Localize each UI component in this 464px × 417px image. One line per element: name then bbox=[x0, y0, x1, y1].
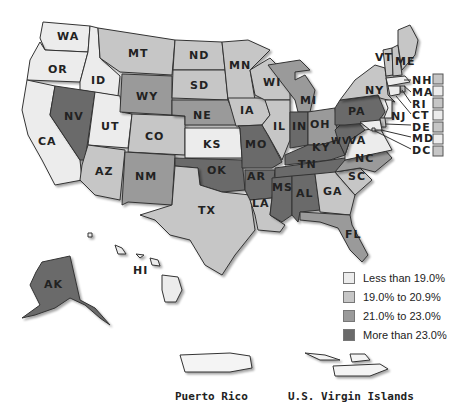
box-nh[interactable] bbox=[433, 74, 443, 84]
box-dc[interactable] bbox=[433, 146, 443, 156]
box-de[interactable] bbox=[433, 122, 443, 132]
svg-text:NJ: NJ bbox=[391, 110, 406, 123]
svg-text:ND: ND bbox=[189, 49, 209, 62]
svg-text:VT: VT bbox=[375, 51, 393, 64]
small-state-callout-labels: NH MA RI CT DE MD DC bbox=[412, 74, 434, 157]
legend-swatch bbox=[343, 310, 355, 322]
svg-text:IL: IL bbox=[273, 120, 286, 133]
svg-text:IN: IN bbox=[292, 120, 307, 133]
svg-text:PA: PA bbox=[348, 105, 366, 118]
puerto-rico-label: Puerto Rico bbox=[175, 390, 248, 403]
svg-text:MI: MI bbox=[300, 94, 317, 107]
svg-text:ID: ID bbox=[91, 74, 106, 87]
svg-text:TN: TN bbox=[298, 158, 317, 171]
svg-text:NV: NV bbox=[64, 110, 84, 123]
box-md[interactable] bbox=[433, 134, 443, 144]
state-ct[interactable] bbox=[388, 86, 400, 96]
virgin-islands-label: U.S. Virgin Islands bbox=[288, 390, 414, 403]
legend-swatch bbox=[343, 329, 355, 341]
svg-text:NY: NY bbox=[365, 84, 384, 97]
state-ak[interactable] bbox=[22, 256, 110, 325]
svg-text:WY: WY bbox=[136, 90, 158, 103]
legend-swatch bbox=[343, 272, 355, 284]
svg-text:AK: AK bbox=[44, 278, 63, 291]
small-state-boxes bbox=[433, 74, 443, 156]
box-ri[interactable] bbox=[433, 98, 443, 108]
box-ma[interactable] bbox=[433, 86, 443, 96]
state-dc[interactable] bbox=[372, 128, 375, 131]
territory-puerto-rico[interactable] bbox=[180, 353, 252, 372]
state-ma[interactable] bbox=[386, 76, 410, 86]
svg-text:SC: SC bbox=[348, 170, 366, 183]
svg-text:ME: ME bbox=[395, 55, 415, 68]
svg-text:TX: TX bbox=[198, 204, 216, 217]
territory-virgin-islands[interactable] bbox=[305, 353, 388, 376]
legend-swatch bbox=[343, 291, 355, 303]
us-choropleth-map: WA OR CA ID NV UT AZ MT WY CO NM ND SD N… bbox=[0, 0, 464, 417]
legend-item: 19.0% to 20.9% bbox=[343, 287, 447, 306]
svg-text:KY: KY bbox=[312, 141, 331, 154]
svg-text:HI: HI bbox=[133, 264, 148, 277]
legend: Less than 19.0% 19.0% to 20.9% 21.0% to … bbox=[343, 268, 447, 344]
svg-text:AL: AL bbox=[296, 187, 314, 200]
svg-text:DC: DC bbox=[412, 144, 431, 157]
svg-text:FL: FL bbox=[345, 228, 362, 241]
svg-text:AZ: AZ bbox=[95, 165, 114, 178]
svg-text:MN: MN bbox=[229, 59, 251, 72]
svg-text:WV: WV bbox=[331, 136, 350, 146]
svg-text:NE: NE bbox=[193, 109, 212, 122]
svg-text:MT: MT bbox=[128, 47, 148, 60]
svg-text:KS: KS bbox=[203, 138, 221, 151]
svg-text:SD: SD bbox=[190, 79, 209, 92]
svg-text:MO: MO bbox=[245, 138, 267, 151]
legend-item: 21.0% to 23.0% bbox=[343, 306, 447, 325]
svg-text:CO: CO bbox=[145, 130, 164, 143]
svg-text:IA: IA bbox=[240, 104, 255, 117]
svg-text:WA: WA bbox=[57, 30, 79, 43]
svg-text:NC: NC bbox=[355, 152, 374, 165]
svg-text:GA: GA bbox=[323, 185, 343, 198]
svg-text:WI: WI bbox=[263, 76, 281, 89]
svg-text:LA: LA bbox=[252, 197, 270, 210]
svg-text:CA: CA bbox=[38, 135, 57, 148]
svg-text:UT: UT bbox=[101, 120, 119, 133]
svg-text:OK: OK bbox=[207, 164, 227, 177]
legend-item: More than 23.0% bbox=[343, 325, 447, 344]
svg-text:OR: OR bbox=[48, 63, 68, 76]
svg-text:VA: VA bbox=[348, 134, 366, 147]
svg-text:AR: AR bbox=[247, 170, 266, 183]
svg-text:NM: NM bbox=[135, 170, 157, 183]
svg-text:OH: OH bbox=[310, 118, 331, 131]
svg-text:MS: MS bbox=[272, 181, 293, 194]
box-ct[interactable] bbox=[433, 110, 443, 120]
legend-item: Less than 19.0% bbox=[343, 268, 447, 287]
